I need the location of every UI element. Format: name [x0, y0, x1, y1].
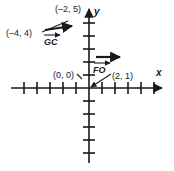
point-label-origin: (0, 0)	[53, 70, 74, 80]
vector-gc-label: GC	[44, 37, 58, 47]
x-axis-label: x	[155, 67, 162, 78]
vector-fo-label: FO	[93, 65, 106, 75]
point-label-neg2-5: (–2, 5)	[55, 4, 81, 14]
vector-coordinate-plane-figure: x y GC FO (–2, 5) (–4, 4) (0, 0) (2, 1)	[0, 0, 174, 171]
point-label-2-1: (2, 1)	[112, 71, 133, 81]
x-axis	[11, 82, 162, 94]
point-label-neg4-4: (–4, 4)	[6, 28, 32, 38]
leader-line-2-1	[91, 74, 111, 87]
leader-line-origin	[77, 74, 82, 79]
y-axis-label: y	[93, 6, 100, 17]
coordinate-plane-svg: x y GC FO (–2, 5) (–4, 4) (0, 0) (2, 1)	[0, 0, 174, 171]
